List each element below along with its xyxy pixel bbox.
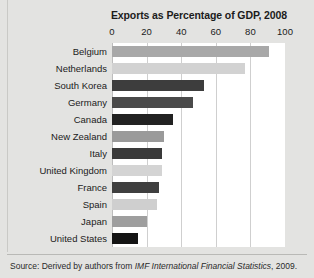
category-label-france: France [0,179,107,196]
bar-new-zealand [112,131,164,142]
source-label: Source: [10,261,39,271]
chart-row: Netherlands [0,60,314,77]
bar-netherlands [112,63,245,74]
figure-container: Exports as Percentage of GDP, 2008 02040… [0,0,314,278]
bar-track [112,111,285,128]
chart-row: Italy [0,145,314,162]
bar-track [112,77,285,94]
bar-track [112,230,285,247]
chart-row: France [0,179,314,196]
bar-track [112,162,285,179]
category-label-belgium: Belgium [0,43,107,60]
category-label-united-states: United States [0,230,107,247]
chart-row: Germany [0,94,314,111]
source-text-before: Derived by authors from [39,261,134,271]
x-tick-label-20: 20 [141,26,152,37]
bar-track [112,128,285,145]
bar-united-states [112,233,138,244]
chart-title: Exports as Percentage of GDP, 2008 [108,9,290,21]
bar-track [112,145,285,162]
chart-row: Japan [0,213,314,230]
chart-row: New Zealand [0,128,314,145]
bar-track [112,60,285,77]
x-tick-label-40: 40 [176,26,187,37]
bar-spain [112,199,157,210]
bar-italy [112,148,162,159]
bar-japan [112,216,147,227]
chart-row: Belgium [0,43,314,60]
bar-united-kingdom [112,165,162,176]
bar-france [112,182,159,193]
category-label-spain: Spain [0,196,107,213]
chart-row: Canada [0,111,314,128]
chart-rows: BelgiumNetherlandsSouth KoreaGermanyCana… [0,43,314,247]
source-note: Source: Derived by authors from IMF Inte… [10,261,297,271]
category-label-south-korea: South Korea [0,77,107,94]
source-separator-rule [7,254,307,255]
source-publication-name: IMF International Financial Statistics [135,261,271,271]
category-label-canada: Canada [0,111,107,128]
bar-track [112,196,285,213]
x-tick-label-100: 100 [277,26,293,37]
category-label-new-zealand: New Zealand [0,128,107,145]
category-label-germany: Germany [0,94,107,111]
bar-track [112,43,285,60]
bar-track [112,179,285,196]
chart-row: Spain [0,196,314,213]
bar-track [112,213,285,230]
category-label-netherlands: Netherlands [0,60,107,77]
category-label-japan: Japan [0,213,107,230]
chart-row: United Kingdom [0,162,314,179]
chart-row: United States [0,230,314,247]
chart-row: South Korea [0,77,314,94]
source-text-after: , 2009. [271,261,297,271]
x-tick-label-0: 0 [109,26,114,37]
category-label-italy: Italy [0,145,107,162]
x-axis-tick-labels: 020406080100 [112,26,285,40]
x-tick-label-60: 60 [211,26,222,37]
category-label-united-kingdom: United Kingdom [0,162,107,179]
bar-track [112,94,285,111]
bar-south-korea [112,80,204,91]
bar-germany [112,97,193,108]
bar-belgium [112,46,269,57]
bar-canada [112,114,173,125]
x-tick-label-80: 80 [245,26,256,37]
